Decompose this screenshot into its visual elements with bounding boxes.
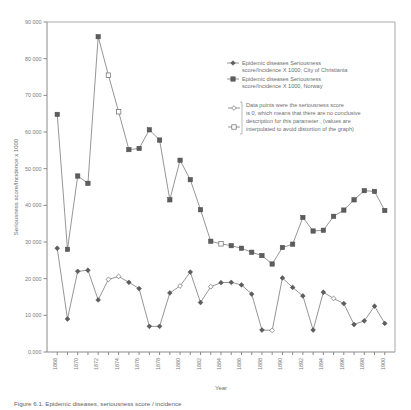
data-point	[127, 147, 131, 151]
data-point	[229, 280, 234, 285]
data-point	[188, 177, 192, 181]
legend-label-line2: score/Incidence X 1000; City of Christia…	[242, 67, 348, 73]
legend-note-line: interpolated to avoid distortion of the …	[246, 126, 354, 132]
data-point	[86, 268, 91, 273]
y-tick-label: 70 000	[25, 92, 42, 98]
data-point	[198, 208, 202, 212]
data-point-open	[331, 296, 336, 301]
data-point	[137, 146, 141, 150]
data-point	[239, 246, 243, 250]
x-tick-label: 1878	[155, 358, 161, 370]
data-point	[341, 301, 346, 306]
y-tick-label: 50 000	[25, 166, 42, 172]
data-point	[157, 138, 161, 142]
x-tick-label: 1894	[318, 358, 324, 370]
x-tick-label: 1872	[93, 358, 99, 370]
legend-marker-open-diamond	[232, 106, 237, 111]
y-tick-label: 30 000	[25, 239, 42, 245]
data-point	[167, 291, 172, 296]
data-point	[65, 247, 69, 251]
x-tick-label: 1876	[134, 358, 140, 370]
legend-marker-norway	[231, 77, 235, 81]
data-point	[86, 181, 90, 185]
data-point	[209, 239, 213, 243]
x-tick-label: 1880	[175, 358, 181, 370]
data-point	[352, 198, 356, 202]
y-tick-label: 60 000	[25, 129, 42, 135]
legend-label-line1: Epidemic diseases Seriousness	[242, 76, 321, 82]
data-point	[65, 317, 70, 322]
y-tick-label: 0,000	[28, 349, 42, 355]
data-point	[157, 324, 162, 329]
data-point	[75, 269, 80, 274]
data-point	[168, 198, 172, 202]
x-tick-label: 1868	[52, 358, 58, 370]
data-point	[270, 262, 274, 266]
data-point	[76, 174, 80, 178]
x-tick-label: 1888	[257, 358, 263, 370]
figure-caption: Figure 6.1. Epidemic diseases, seriousne…	[14, 400, 182, 407]
data-point	[311, 229, 315, 233]
data-point	[362, 318, 367, 323]
legend-marker-christiania	[231, 61, 236, 66]
legend-note-line: Data points were the seriousness score	[246, 102, 344, 108]
data-point	[55, 246, 60, 251]
legend-label-line1: Epidemic diseases Seriousness	[242, 60, 321, 66]
y-tick-label: 80 000	[25, 56, 42, 62]
data-point	[290, 242, 294, 246]
x-axis-title: Year	[215, 385, 227, 391]
data-point	[331, 214, 335, 218]
x-tick-label: 1886	[236, 358, 242, 370]
data-point	[321, 290, 326, 295]
data-point	[372, 189, 376, 193]
data-point-open	[106, 277, 111, 282]
data-point	[362, 188, 366, 192]
data-point-open	[270, 328, 275, 333]
y-axis-title: Seriousness score/Incidence x 1000	[13, 138, 19, 235]
figure-container: 0,00010 00020 00030 00040 00050 00060 00…	[0, 0, 411, 410]
data-point	[311, 328, 316, 333]
epidemic-diseases-line-chart: 0,00010 00020 00030 00040 00050 00060 00…	[0, 0, 411, 410]
data-point	[280, 245, 284, 249]
data-point	[137, 286, 142, 291]
data-point-open	[116, 110, 120, 114]
data-point	[55, 112, 59, 116]
data-point	[96, 34, 100, 38]
data-point	[382, 321, 387, 326]
data-point	[250, 250, 254, 254]
data-point	[352, 322, 357, 327]
y-tick-label: 10 000	[25, 312, 42, 318]
x-tick-label: 1882	[196, 358, 202, 370]
legend-marker-open-square	[232, 125, 236, 129]
data-point	[260, 253, 264, 257]
data-point	[321, 228, 325, 232]
x-tick-label: 1874	[114, 358, 120, 370]
x-tick-label: 1870	[73, 358, 79, 370]
x-tick-label: 1896	[339, 358, 345, 370]
data-point	[301, 215, 305, 219]
x-tick-label: 1892	[298, 358, 304, 370]
y-tick-label: 20 000	[25, 276, 42, 282]
legend-note-line: is 0, which means that there are no conc…	[246, 110, 361, 116]
data-point	[198, 300, 203, 305]
y-tick-label: 40 000	[25, 202, 42, 208]
data-point	[178, 158, 182, 162]
y-tick-label: 90 000	[25, 19, 42, 25]
legend-note-line: description for this parameter , (values…	[246, 118, 351, 124]
data-point	[383, 208, 387, 212]
data-point	[260, 328, 265, 333]
data-point-open	[106, 73, 110, 77]
data-point	[229, 243, 233, 247]
x-tick-label: 1884	[216, 358, 222, 370]
x-tick-label: 1898	[359, 358, 365, 370]
data-point-open	[219, 242, 223, 246]
data-point	[372, 304, 377, 309]
data-point	[147, 324, 152, 329]
data-point	[147, 128, 151, 132]
data-point-open	[208, 284, 213, 289]
series-line-christiania	[57, 248, 385, 330]
legend-note-brace	[240, 102, 242, 134]
x-tick-label: 1900	[380, 358, 386, 370]
data-point	[96, 298, 101, 303]
data-point-open	[116, 274, 121, 279]
